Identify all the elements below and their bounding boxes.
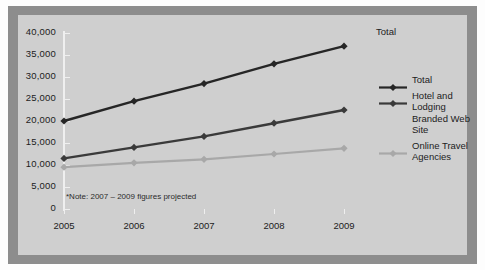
series-data-point [60,117,67,124]
chart-footnote: *Note: 2007 – 2009 figures projected [66,192,196,201]
series-data-point [270,150,277,157]
series-data-point [340,145,347,152]
legend-marker-icon [379,144,407,153]
series-data-point [130,144,137,151]
chart-legend: Total Hotel and Lodging Branded Web Site… [379,74,475,167]
legend-marker-icon [379,94,407,103]
chart-figure: 05,00010,00015,00020,00025,00030,00035,0… [0,0,485,270]
chart-plot-area: 05,00010,00015,00020,00025,00030,00035,0… [0,0,485,270]
total-series-annotation: Total [376,26,396,37]
series-data-point [200,80,207,87]
series-data-point [200,133,207,140]
legend-item: Hotel and Lodging Branded Web Site [379,90,475,136]
series-data-point [340,106,347,113]
series-data-point [130,98,137,105]
series-data-point [200,156,207,163]
series-data-point [60,164,67,171]
legend-label: Total [412,74,475,86]
series-data-point [270,60,277,67]
legend-marker-icon [379,78,407,87]
legend-item: Online Travel Agencies [379,140,475,163]
series-data-point [340,43,347,50]
series-data-point [130,159,137,166]
legend-label: Hotel and Lodging Branded Web Site [412,90,475,136]
series-data-point [60,155,67,162]
legend-label: Online Travel Agencies [412,140,475,163]
legend-item: Total [379,74,475,86]
series-data-point [270,120,277,127]
